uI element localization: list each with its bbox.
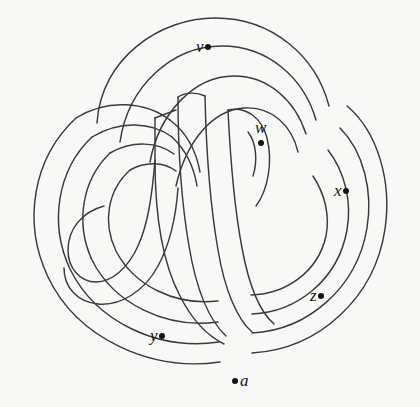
knot-curve-band3-bottom-arc — [83, 153, 218, 323]
knot-curve-band3-right-arc — [252, 150, 349, 314]
point-label-x: x — [334, 182, 349, 199]
point-label-w: w — [255, 119, 267, 146]
knot-curve-center-cap-top — [178, 93, 205, 97]
knot-curve-outer-top-left-arc — [97, 18, 329, 123]
point-label-text-x: x — [334, 182, 342, 199]
point-label-a: a — [232, 372, 249, 389]
point-label-text-v: v — [196, 38, 204, 55]
point-label-y: y — [150, 327, 165, 344]
point-marker-dot-x — [343, 188, 349, 194]
point-label-text-y: y — [150, 327, 158, 344]
knot-curve-left-arm-upper — [170, 120, 200, 172]
point-marker-dot-v — [205, 44, 211, 50]
knot-diagram-figure: vwxzya — [0, 0, 420, 407]
point-marker-dot-z — [318, 293, 324, 299]
knot-curve-center-band-far-edge — [228, 110, 274, 324]
knot-curve-left-inner-loop — [68, 160, 155, 282]
knot-curve-band4-bottom-arc — [108, 170, 218, 302]
point-label-z: z — [310, 287, 324, 304]
knot-curve-left-spiral-c — [130, 164, 176, 171]
point-label-text-a: a — [240, 372, 249, 389]
point-marker-dot-a — [232, 378, 238, 384]
knot-curve-center-band-left-edge — [155, 118, 224, 344]
point-label-v: v — [196, 38, 211, 55]
point-label-text-w: w — [255, 119, 267, 136]
knot-curve-left-spiral-b — [110, 144, 174, 154]
knot-diagram-canvas — [0, 0, 420, 407]
knot-curve-band2-bottom-arc — [58, 137, 219, 344]
knot-curve-left-arm-lower — [172, 137, 197, 186]
point-label-text-z: z — [310, 287, 317, 304]
point-marker-dot-w — [258, 140, 264, 146]
point-marker-dot-y — [159, 333, 165, 339]
